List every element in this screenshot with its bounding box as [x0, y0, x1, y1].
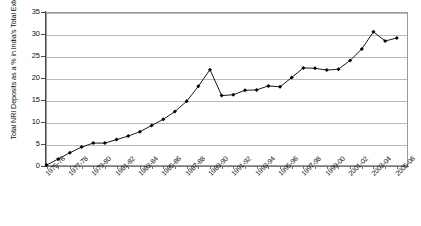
x-axis-tick-mark: [338, 166, 339, 169]
y-axis-tick-label: 25: [18, 52, 40, 60]
gridline: [47, 79, 407, 80]
y-axis-tick-mark: [41, 100, 46, 101]
gridline: [47, 35, 407, 36]
plot-area: [46, 12, 408, 166]
y-axis-tick-label: 0: [18, 162, 40, 170]
gridline: [47, 57, 407, 58]
y-axis-tick-label: 35: [18, 8, 40, 16]
x-axis-tick-mark: [58, 166, 59, 169]
x-axis-tick-mark: [128, 166, 129, 169]
x-axis-tick-mark: [175, 166, 176, 169]
y-axis-tick-mark: [41, 12, 46, 13]
x-axis-tick-mark: [198, 166, 199, 169]
x-axis-tick-mark: [268, 166, 269, 169]
y-axis-title: Total NRI Deposits as a % in India's Tot…: [9, 0, 18, 140]
y-axis-tick-mark: [41, 56, 46, 57]
chart-container: Total NRI Deposits as a % in India's Tot…: [0, 0, 421, 226]
y-axis-tick-mark: [41, 122, 46, 123]
x-axis-tick-mark: [152, 166, 153, 169]
y-axis-tick-mark: [41, 144, 46, 145]
y-axis-tick-label: 15: [18, 96, 40, 104]
x-axis-tick-mark: [385, 166, 386, 169]
gridline: [47, 13, 407, 14]
y-axis-tick-mark: [41, 166, 46, 167]
x-axis-tick-mark: [82, 166, 83, 169]
x-axis-tick-mark: [245, 166, 246, 169]
x-axis-tick-mark: [222, 166, 223, 169]
gridline: [47, 145, 407, 146]
x-axis-tick-mark: [292, 166, 293, 169]
y-axis-tick-label: 20: [18, 74, 40, 82]
x-axis-tick-mark: [315, 166, 316, 169]
y-axis-tick-label: 30: [18, 30, 40, 38]
y-axis-tick-mark: [41, 78, 46, 79]
x-axis-tick-mark: [362, 166, 363, 169]
gridline: [47, 123, 407, 124]
x-axis-tick-mark: [105, 166, 106, 169]
y-axis-tick-mark: [41, 34, 46, 35]
y-axis-tick-label: 5: [18, 140, 40, 148]
gridline: [47, 101, 407, 102]
y-axis-tick-label: 10: [18, 118, 40, 126]
